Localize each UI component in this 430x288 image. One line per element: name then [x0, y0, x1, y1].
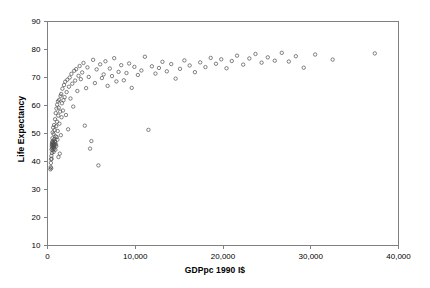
- x-tick-label: 20,000: [193, 252, 253, 261]
- y-tick-label: 90: [11, 17, 41, 26]
- x-axis-title: GDPpc 1990 I$: [0, 265, 430, 275]
- tick-marks: [44, 22, 399, 250]
- scatter-chart: 102030405060708090 010,00020,00030,00040…: [0, 0, 430, 288]
- plot-frame: [48, 22, 399, 246]
- x-tick-label: 10,000: [105, 252, 165, 261]
- data-points: [49, 51, 377, 171]
- y-tick-label: 80: [11, 45, 41, 54]
- x-tick-label: 30,000: [281, 252, 341, 261]
- x-tick-label: 40,000: [369, 252, 429, 261]
- y-axis-title: Life Expectancy: [16, 59, 26, 199]
- y-tick-label: 20: [11, 213, 41, 222]
- y-tick-label: 10: [11, 241, 41, 250]
- plot-canvas: [0, 0, 430, 288]
- x-tick-label: 0: [18, 252, 78, 261]
